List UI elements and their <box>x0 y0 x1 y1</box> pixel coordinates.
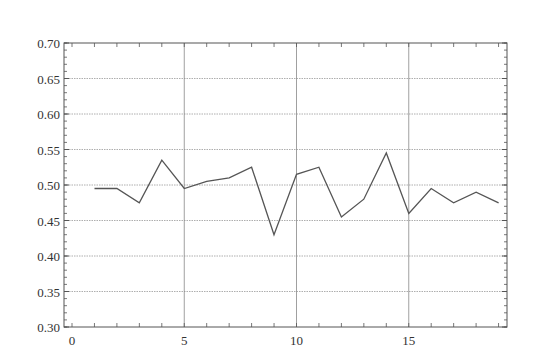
y-tick-label: 0.35 <box>37 285 60 300</box>
x-axis-labels: 051015 <box>69 333 416 348</box>
y-tick-label: 0.40 <box>37 249 60 264</box>
line-chart: 0.300.350.400.450.500.550.600.650.70 051… <box>0 0 536 362</box>
y-tick-label: 0.70 <box>37 36 60 51</box>
grid-lines <box>64 43 507 327</box>
y-tick-label: 0.65 <box>37 72 60 87</box>
y-tick-label: 0.30 <box>37 320 60 335</box>
x-tick-label: 5 <box>181 333 188 348</box>
y-tick-label: 0.60 <box>37 107 60 122</box>
y-tick-label: 0.50 <box>37 178 60 193</box>
x-tick-label: 15 <box>402 333 415 348</box>
y-axis-labels: 0.300.350.400.450.500.550.600.650.70 <box>37 36 60 335</box>
x-tick-label: 10 <box>290 333 303 348</box>
y-tick-label: 0.45 <box>37 214 60 229</box>
x-tick-label: 0 <box>69 333 76 348</box>
y-tick-label: 0.55 <box>37 143 60 158</box>
